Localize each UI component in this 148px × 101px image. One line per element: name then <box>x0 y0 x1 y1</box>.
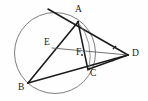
vertex-dot-D <box>127 54 129 56</box>
point-label-D: D <box>132 49 139 59</box>
secant-bcd-line <box>28 55 128 83</box>
point-label-E: E <box>44 38 50 48</box>
vertex-dot-F <box>81 54 83 56</box>
chord-ab-line <box>28 22 78 83</box>
point-label-F: F <box>76 48 81 58</box>
tangent-at-A-line <box>48 9 128 55</box>
point-label-C: C <box>90 69 96 79</box>
point-label-B: B <box>18 83 24 93</box>
point-label-A: A <box>75 5 82 15</box>
vertex-dot-B <box>27 82 29 84</box>
circumcircle <box>15 13 96 94</box>
angle-tick-dot <box>112 60 114 62</box>
geometry-diagram: A B C D E F <box>0 0 148 101</box>
angle-tick-dot <box>115 46 117 48</box>
angle-tick-dot <box>113 48 115 50</box>
vertex-dot-A <box>77 21 79 23</box>
angle-tick-dot <box>114 58 116 60</box>
